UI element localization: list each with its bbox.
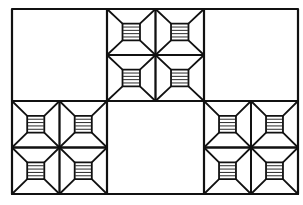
striped-center-square [75, 116, 92, 133]
striped-center-square [171, 70, 188, 87]
framed-square-unit [12, 148, 60, 195]
framed-square-unit [60, 101, 108, 148]
striped-center-square [266, 116, 283, 133]
striped-center-square [171, 24, 188, 41]
framed-square-unit [251, 101, 298, 148]
framed-square-unit [156, 55, 205, 101]
quilt-diagram [0, 0, 303, 205]
quilt-pattern-drawing [0, 0, 303, 205]
striped-center-square [219, 116, 236, 133]
framed-square-unit [107, 9, 156, 55]
framed-square-unit [204, 101, 251, 148]
striped-center-square [27, 116, 44, 133]
striped-center-square [123, 70, 140, 87]
pieced-block [204, 101, 298, 194]
framed-square-unit [12, 101, 60, 148]
framed-square-unit [107, 55, 156, 101]
striped-center-square [75, 162, 92, 179]
pieced-block [107, 9, 204, 101]
framed-square-unit [60, 148, 108, 195]
framed-square-unit [251, 148, 298, 195]
striped-center-square [219, 162, 236, 179]
striped-center-square [266, 162, 283, 179]
framed-square-unit [204, 148, 251, 195]
framed-square-unit [156, 9, 205, 55]
striped-center-square [27, 162, 44, 179]
striped-center-square [123, 24, 140, 41]
pieced-block [12, 101, 107, 194]
